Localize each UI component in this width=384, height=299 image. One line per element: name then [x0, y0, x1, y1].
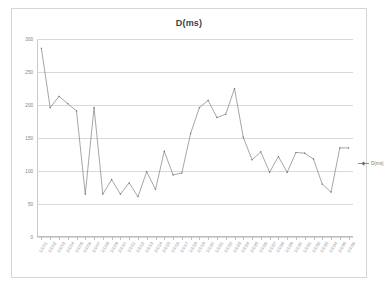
x-tick-mark	[226, 237, 227, 240]
x-tick-mark	[349, 237, 350, 240]
x-tick-mark	[85, 237, 86, 240]
x-tick-mark	[235, 237, 236, 240]
chart-container: D(ms) 050100150200250300 1/1/011/1/021/1…	[11, 8, 367, 278]
x-tick-mark	[59, 237, 60, 240]
x-tick-mark	[173, 237, 174, 240]
x-tick-mark	[287, 237, 288, 240]
x-tick-mark	[129, 237, 130, 240]
x-tick-mark	[296, 237, 297, 240]
y-tick-label: 150	[0, 136, 33, 141]
y-tick-label: 250	[0, 70, 33, 75]
x-tick-mark	[41, 237, 42, 240]
x-tick-mark	[138, 237, 139, 240]
y-tick-label: 0	[0, 235, 33, 240]
x-tick-mark	[261, 237, 262, 240]
y-tick-label: 200	[0, 103, 33, 108]
x-tick-mark	[217, 237, 218, 240]
x-tick-mark	[199, 237, 200, 240]
x-tick-mark	[68, 237, 69, 240]
x-tick-mark	[208, 237, 209, 240]
data-point-marker	[348, 147, 350, 149]
x-tick-mark	[322, 237, 323, 240]
x-tick-mark	[314, 237, 315, 240]
x-tick-mark	[305, 237, 306, 240]
legend-line-marker-icon	[358, 161, 369, 166]
x-tick-mark	[94, 237, 95, 240]
data-point-marker	[93, 107, 95, 109]
x-tick-mark	[278, 237, 279, 240]
legend-label: D(ms)	[371, 161, 384, 166]
data-series-line	[37, 39, 353, 237]
x-tick-mark	[331, 237, 332, 240]
x-tick-mark	[243, 237, 244, 240]
x-tick-mark	[77, 237, 78, 240]
data-point-marker	[172, 174, 174, 176]
x-tick-mark	[103, 237, 104, 240]
data-point-marker	[190, 133, 192, 135]
x-tick-mark	[252, 237, 253, 240]
data-point-marker	[234, 88, 236, 90]
x-tick-mark	[164, 237, 165, 240]
x-tick-mark	[191, 237, 192, 240]
chart-title: D(ms)	[12, 18, 366, 28]
chart-legend: D(ms)	[358, 161, 384, 166]
x-tick-mark	[340, 237, 341, 240]
data-point-marker	[41, 47, 43, 49]
x-tick-mark	[147, 237, 148, 240]
data-point-marker	[339, 147, 341, 149]
x-tick-mark	[156, 237, 157, 240]
x-tick-mark	[112, 237, 113, 240]
plot-area: 050100150200250300 1/1/011/1/021/1/031/1…	[37, 39, 353, 237]
x-tick-mark	[182, 237, 183, 240]
y-tick-label: 300	[0, 37, 33, 42]
data-point-marker	[181, 172, 183, 174]
x-tick-mark	[270, 237, 271, 240]
y-tick-label: 50	[0, 202, 33, 207]
data-point-marker	[84, 193, 86, 195]
y-tick-label: 100	[0, 169, 33, 174]
x-tick-mark	[50, 237, 51, 240]
x-tick-mark	[120, 237, 121, 240]
